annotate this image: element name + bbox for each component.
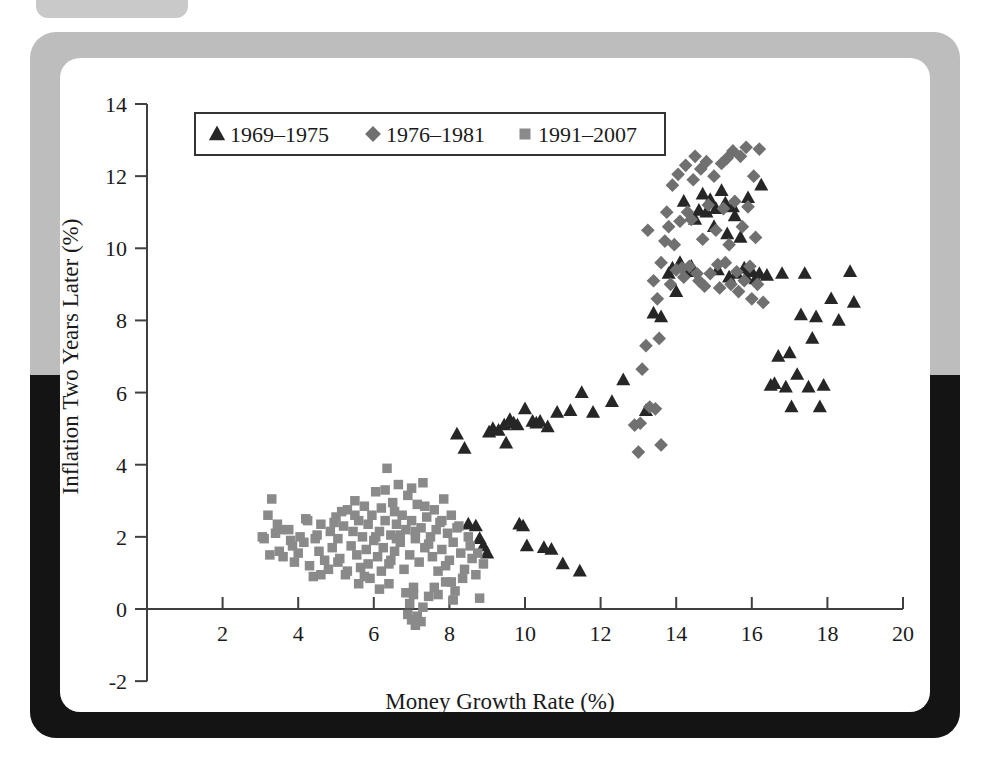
page-corner-tab [36, 0, 188, 18]
figure-frame-inner [60, 58, 930, 712]
figure-frame [30, 32, 960, 738]
